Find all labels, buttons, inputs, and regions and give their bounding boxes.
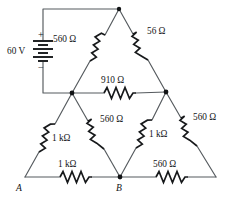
wire-lower-left-inner-bottom: [104, 149, 120, 177]
resistor-lower-right-outer-label: 560 Ω: [193, 112, 216, 122]
wire-lower-right-inner-top: [152, 92, 166, 120]
resistor-lower-right-inner-label: 1 kΩ: [149, 129, 168, 139]
wire-bridge-right: [136, 92, 166, 93]
resistor-upper-right-zigzag: [132, 32, 148, 60]
battery-minus-sign: −: [38, 62, 44, 73]
resistor-lower-left-inner-label: 560 Ω: [100, 114, 123, 124]
branch-lower-left-inner: [72, 93, 120, 177]
wire-upper-left-lower: [72, 61, 90, 93]
branch-upper-right: [119, 9, 166, 92]
resistor-bottom-left-label: 1 kΩ: [58, 159, 77, 169]
wire-lower-right-outer-top: [166, 92, 181, 118]
branch-bottom-left: [25, 172, 120, 183]
node-dot-mid-left: [70, 91, 75, 96]
resistor-lower-left-outer-label: 1 kΩ: [52, 133, 71, 143]
resistor-upper-left-label: 560 Ω: [53, 34, 76, 44]
node-label-a: A: [15, 182, 22, 193]
node-dot-b: [118, 175, 123, 180]
wire-upper-right-lower: [148, 60, 166, 92]
wire-lower-left-inner-top: [72, 93, 88, 121]
resistor-upper-left-zigzag: [90, 33, 105, 61]
resistor-bottom-right-zigzag: [156, 172, 188, 183]
node-dot-apex: [117, 7, 121, 11]
resistor-upper-right-label: 56 Ω: [147, 26, 166, 36]
battery-symbol: [33, 41, 53, 61]
wire-upper-left-upper: [105, 9, 119, 35]
node-dot-mid-right: [164, 90, 169, 95]
branch-middle-bridge: [72, 88, 166, 99]
wire-lower-right-inner-bottom: [120, 148, 136, 177]
wire-lower-left-outer-bottom: [25, 152, 39, 177]
wire-upper-right-upper: [119, 9, 133, 34]
resistor-bottom-left-zigzag: [60, 172, 92, 183]
resistor-bridge-label: 910 Ω: [101, 75, 124, 85]
wire-battery-bottom: [43, 62, 72, 93]
battery-plus-sign: +: [38, 29, 44, 40]
resistor-bottom-right-label: 560 Ω: [153, 159, 176, 169]
wire-lower-left-outer-top: [55, 93, 72, 124]
node-label-b: B: [116, 182, 122, 193]
resistor-bridge-zigzag: [104, 88, 136, 99]
circuit-diagram: + − 60 V 560 Ω 56 Ω 910 Ω: [0, 0, 251, 200]
branch-bottom-right: [120, 172, 216, 183]
source-voltage-label: 60 V: [7, 46, 25, 56]
schematic-canvas: + − 60 V 560 Ω 56 Ω 910 Ω: [0, 0, 251, 200]
wire-lower-right-outer-bottom: [197, 146, 216, 177]
